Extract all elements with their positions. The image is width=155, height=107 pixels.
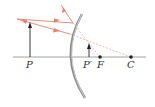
object-label: P [26, 60, 33, 70]
ray-arrowhead [21, 20, 27, 24]
convex-mirror [71, 14, 85, 98]
image-label: P′ [83, 60, 92, 70]
virtual-ray-to-center [70, 34, 131, 57]
ray-arrowhead [53, 28, 60, 33]
reflected-ray-1 [61, 5, 73, 23]
ray-diagram [0, 0, 155, 107]
image-arrowhead [87, 43, 91, 49]
center-label: C [127, 60, 135, 70]
focal-point-label: F [97, 60, 104, 70]
